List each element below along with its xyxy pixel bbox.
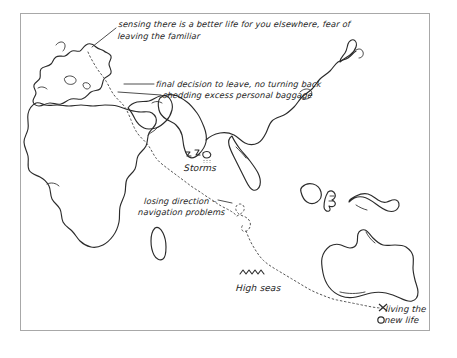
landmass-new-guinea [349,194,399,212]
annotation-shedding-baggage: shedding excess personal baggage [163,90,313,102]
annotation-navigation-problems: navigation problems [138,207,226,219]
annotation-final-decision: final decision to leave, no turning back [156,79,322,91]
annotation-storms: Storms [184,163,217,175]
annotation-sensing: sensing there is a better life for you e… [117,19,351,42]
annotation-living-line1: living the [385,304,427,314]
landmass-indonesia [301,184,336,212]
storm-icon [186,150,211,163]
page-canvas: sensing there is a better life for you e… [0,0,457,358]
leader-shedding [118,92,161,95]
landmass-india [158,95,206,158]
annotation-living-line2: new life [384,315,419,325]
landmass-east-asia [206,51,356,190]
origin-circle-marker [378,317,384,323]
annotation-living-new-life: living thenew life [384,304,427,326]
landmass-africa [24,103,157,248]
landmass-europe-mediterranean [33,42,111,106]
landmass-japan [340,40,363,62]
annotation-sensing-line2: leaving the familiar [117,31,200,41]
annotation-sensing-line1: sensing there is a better life for you e… [118,19,351,29]
annotation-losing-direction: losing direction – [144,196,217,208]
annotation-high-seas: High seas [236,283,282,295]
high-seas-waves-icon [240,270,264,274]
landmass-australia [322,230,418,302]
leader-losing-direction [218,200,232,203]
landmass-madagascar [151,227,166,259]
leader-sensing [92,28,116,47]
